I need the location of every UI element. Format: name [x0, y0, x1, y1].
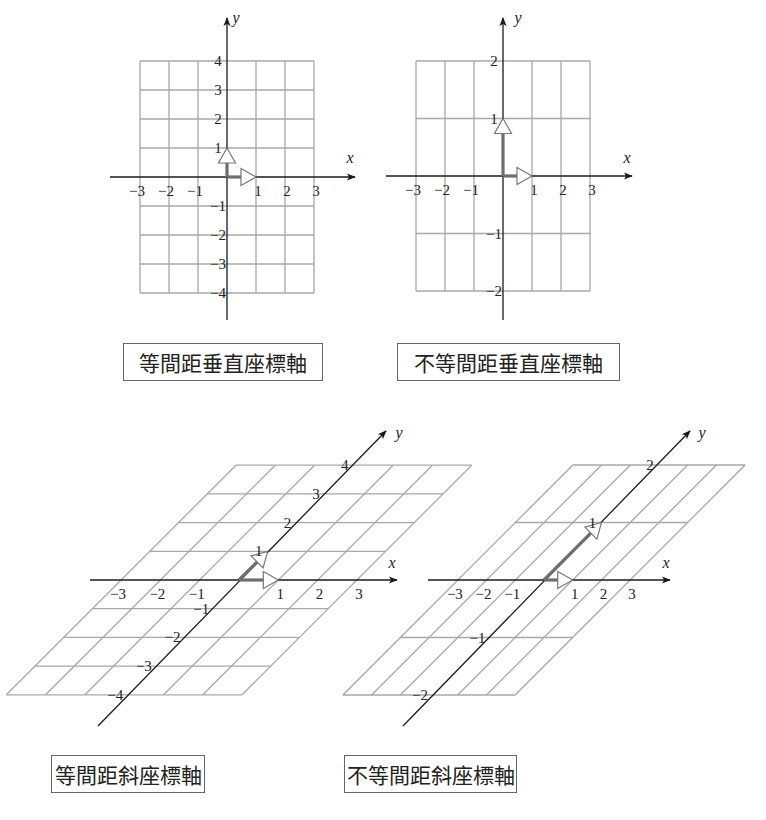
y-tick-label: −2 [210, 227, 226, 243]
x-tick-label: 3 [312, 183, 320, 199]
caption-unequal-rectangular: 不等間距垂直座標軸 [397, 343, 620, 381]
coordinate-systems-figure: −3−2−11234321−1−2−3−4xy −3−2−112321−1−2x… [0, 0, 766, 820]
x-tick-label: 2 [316, 586, 324, 602]
x-tick-label: 3 [628, 586, 636, 602]
x-axis-label: x [387, 554, 395, 571]
x-tick-label: −1 [189, 586, 205, 602]
x-tick-label: 1 [277, 586, 285, 602]
x-tick-label: 1 [571, 586, 579, 602]
x-axis-label: x [661, 554, 669, 571]
panel-equal-rectangular: −3−2−11234321−1−2−3−4xy [110, 9, 355, 320]
y-tick-label: −2 [412, 687, 428, 703]
y-tick-label: 2 [490, 53, 498, 69]
x-tick-label: 3 [588, 182, 596, 198]
x-tick-label: −1 [463, 182, 479, 198]
x-tick-label: 3 [355, 586, 363, 602]
x-tick-label: −3 [447, 586, 463, 602]
y-axis-label: y [512, 9, 522, 27]
x-tick-label: −3 [129, 183, 145, 199]
y-tick-label: 1 [490, 111, 498, 127]
panel-unequal-rectangular: −3−2−112321−1−2xy [386, 9, 632, 320]
x-tick-label: −1 [504, 586, 520, 602]
y-tick-label: −2 [486, 283, 502, 299]
y-tick-label: 4 [341, 457, 349, 473]
caption-equal-rectangular: 等間距垂直座標軸 [123, 343, 323, 381]
y-tick-label: −2 [165, 629, 181, 645]
y-tick-label: 4 [214, 53, 222, 69]
y-axis-label: y [393, 424, 403, 442]
y-tick-label: −3 [136, 658, 152, 674]
x-tick-label: 2 [600, 586, 608, 602]
y-tick-label: 2 [646, 457, 654, 473]
y-tick-label: −1 [210, 198, 226, 214]
x-tick-label: −3 [405, 182, 421, 198]
panel-unequal-oblique: −3−2−112321−1−2xy [343, 424, 745, 726]
y-tick-label: 1 [214, 140, 222, 156]
x-tick-label: −2 [476, 586, 492, 602]
x-tick-label: 1 [530, 182, 538, 198]
y-tick-label: −4 [210, 285, 226, 301]
y-axis-label: y [230, 9, 240, 27]
caption-unequal-oblique: 不等間距斜座標軸 [344, 755, 517, 793]
caption-equal-oblique: 等間距斜座標軸 [51, 755, 205, 793]
y-tick-label: 3 [312, 486, 320, 502]
x-tick-label: 1 [254, 183, 262, 199]
y-tick-label: 2 [214, 111, 222, 127]
y-axis-label: y [696, 424, 706, 442]
y-tick-label: −1 [470, 630, 486, 646]
y-tick-label: −3 [210, 256, 226, 272]
y-tick-label: −1 [193, 601, 209, 617]
basis-vector-j [544, 531, 593, 580]
x-tick-label: −3 [110, 586, 126, 602]
y-tick-label: 2 [284, 515, 292, 531]
y-tick-label: 1 [589, 515, 597, 531]
x-axis-label: x [622, 149, 630, 166]
x-tick-label: −2 [158, 183, 174, 199]
y-tick-label: −4 [107, 687, 123, 703]
x-tick-label: −1 [187, 183, 203, 199]
x-tick-label: −2 [434, 182, 450, 198]
y-tick-label: 1 [255, 543, 263, 559]
basis-vector-j [239, 560, 259, 580]
x-axis-label: x [345, 149, 353, 166]
x-tick-label: 2 [283, 183, 291, 199]
y-tick-label: −1 [486, 226, 502, 242]
x-tick-label: −2 [149, 586, 165, 602]
x-tick-label: 2 [559, 182, 567, 198]
panel-equal-oblique: −3−2−11234321−1−2−3−4xy [6, 424, 471, 726]
y-tick-label: 3 [214, 82, 222, 98]
